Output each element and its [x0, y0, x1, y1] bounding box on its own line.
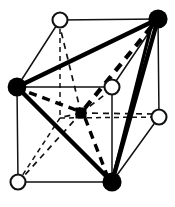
atom-filled-front-top-left: [8, 78, 27, 97]
atom-open-back-bottom-right: [152, 110, 167, 125]
atom-filled-front-bottom-right: [102, 172, 121, 191]
atom-open-front-top-right: [105, 80, 120, 95]
atom-body-center-square: [76, 108, 87, 119]
cube-edge-right-back-vertical: [158, 19, 159, 117]
atom-open-front-bottom-left: [11, 175, 26, 190]
unit-cell-svg: [0, 0, 175, 207]
cube-edge-left-front-vertical: [17, 87, 18, 182]
atom-filled-back-top-right: [148, 9, 167, 28]
atom-open-back-top-left: [53, 13, 68, 28]
cube-edge-top-back: [60, 19, 158, 20]
unit-cell-figure: [0, 0, 175, 207]
